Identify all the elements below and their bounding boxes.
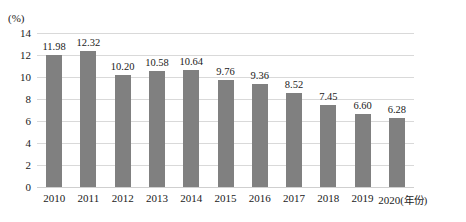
x-axis-tick-label: 2019 (352, 192, 374, 204)
y-axis-unit-label: (%) (8, 12, 25, 24)
bar-chart: (%) 02468101214 11.9812.3210.2010.5810.6… (0, 0, 466, 222)
bar (320, 105, 336, 187)
y-axis-tick-label: 10 (20, 71, 31, 83)
x-axis-tick-label: 2018 (317, 192, 339, 204)
plot-area: 02468101214 11.9812.3210.2010.5810.649.7… (37, 33, 414, 187)
bar-value-label: 6.28 (388, 104, 406, 115)
bar-value-label: 12.32 (77, 37, 101, 48)
bar (355, 114, 371, 187)
x-axis-tick-label: 2020(年份) (378, 192, 427, 207)
bar-value-label: 9.76 (216, 66, 234, 77)
x-axis-tick-label: 2013 (146, 192, 168, 204)
bar-value-label: 9.36 (251, 70, 269, 81)
bar (183, 70, 199, 187)
bar-value-label: 11.98 (43, 41, 66, 52)
x-axis-tick-label: 2014 (180, 192, 202, 204)
y-axis-tick-label: 12 (20, 49, 31, 61)
bar (389, 118, 405, 187)
bar (115, 75, 131, 187)
x-axis-tick-label: 2011 (78, 192, 100, 204)
bars-group: 11.9812.3210.2010.5810.649.769.368.527.4… (37, 33, 414, 187)
y-axis-tick-label: 6 (26, 115, 32, 127)
bar (149, 71, 165, 187)
bar (46, 55, 62, 187)
gridline (37, 187, 414, 188)
bar-value-label: 10.58 (145, 57, 169, 68)
bar (218, 80, 234, 187)
y-axis-tick-label: 14 (20, 27, 31, 39)
x-axis-tick-label: 2016 (249, 192, 271, 204)
y-axis-tick-label: 8 (26, 93, 32, 105)
bar-value-label: 8.52 (285, 79, 303, 90)
bar (286, 93, 302, 187)
y-axis-tick-label: 2 (26, 159, 32, 171)
bar-value-label: 10.64 (179, 56, 203, 67)
x-axis-tick-label: 2012 (112, 192, 134, 204)
x-axis-tick-label: 2017 (283, 192, 305, 204)
bar (80, 51, 96, 187)
y-axis-tick-label: 4 (26, 137, 32, 149)
bar-value-label: 7.45 (319, 91, 337, 102)
x-axis-tick-label: 2015 (215, 192, 237, 204)
bar (252, 84, 268, 187)
x-axis-tick-label: 2010 (43, 192, 65, 204)
y-axis-tick-label: 0 (26, 181, 32, 193)
x-axis-title: (年份) (400, 195, 427, 206)
bar-value-label: 6.60 (353, 100, 371, 111)
bar-value-label: 10.20 (111, 61, 135, 72)
